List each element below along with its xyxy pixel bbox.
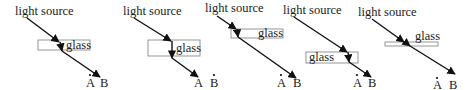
incident-ray-arrow-icon xyxy=(217,16,236,29)
light-source-label: light source xyxy=(15,4,74,18)
glass-label: glass xyxy=(258,26,283,40)
refracted-ray-arrow-icon xyxy=(348,52,349,62)
light-refraction-diagram: light source glass A B light source glas… xyxy=(0,0,472,90)
light-source-label: light source xyxy=(205,1,264,15)
glass-label: glass xyxy=(415,29,440,43)
point-b-label: B xyxy=(449,78,457,90)
point-a-label: A xyxy=(353,76,362,90)
light-source-label: light source xyxy=(358,5,417,19)
light-source-label: light source xyxy=(123,4,182,18)
light-source-label: light source xyxy=(283,3,342,17)
emergent-ray-arrow-icon xyxy=(62,51,100,77)
point-b-label: B xyxy=(368,76,376,90)
point-a-label: A xyxy=(194,76,203,90)
emergent-ray-arrow-icon xyxy=(349,62,371,77)
point-a-label: A xyxy=(433,78,442,90)
point-b-label: B xyxy=(100,76,108,90)
point-a-label: A xyxy=(86,76,95,90)
point-a-label: A xyxy=(277,76,286,90)
panel-2: light source glass A B xyxy=(123,4,218,90)
emergent-ray-arrow-icon xyxy=(238,37,296,78)
glass-label: glass xyxy=(66,38,91,52)
panel-1: light source glass A B xyxy=(15,4,108,90)
emergent-ray-arrow-icon xyxy=(172,58,198,77)
incident-ray-arrow-icon xyxy=(134,18,171,41)
emergent-ray-arrow-icon xyxy=(410,46,455,74)
glass-label: glass xyxy=(176,41,201,55)
point-b-label: B xyxy=(210,76,218,90)
glass-label: glass xyxy=(309,50,334,64)
incident-ray-arrow-icon xyxy=(27,18,59,42)
refracted-ray-arrow-icon xyxy=(237,29,238,37)
incident-ray-arrow-icon xyxy=(372,19,404,42)
incident-ray-arrow-icon xyxy=(294,17,347,52)
point-b-label: B xyxy=(293,76,301,90)
